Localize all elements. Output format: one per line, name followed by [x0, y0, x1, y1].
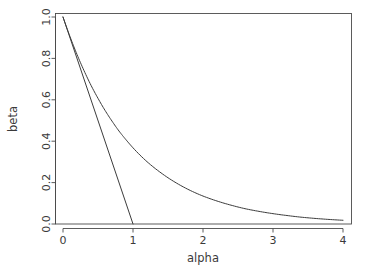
plot-panel-box	[56, 14, 352, 225]
y-axis	[52, 17, 56, 224]
y-tick-label-group: 0.00.20.40.60.81.0	[40, 8, 53, 233]
y-tick-label: 0.8	[40, 50, 53, 68]
x-tick-label-group: 01234	[60, 234, 347, 247]
x-axis	[63, 229, 343, 233]
y-tick-label: 0.2	[40, 174, 53, 192]
y-tick-label: 0.4	[40, 132, 53, 150]
x-axis-line	[63, 229, 343, 233]
x-axis-title: alpha	[187, 251, 219, 265]
exponential-decay-plot: 0.00.20.40.60.81.0 01234 alpha beta	[0, 0, 369, 273]
y-tick-label: 1.0	[40, 8, 53, 26]
series-exponential-decay	[63, 17, 343, 220]
x-tick-label: 2	[200, 234, 207, 247]
data-series-group	[63, 17, 343, 224]
y-axis-title: beta	[6, 106, 20, 132]
x-tick-label: 4	[340, 234, 347, 247]
y-axis-line	[52, 17, 56, 224]
y-tick-label: 0.6	[40, 91, 53, 109]
series-tangent-line	[63, 17, 133, 224]
x-tick-label: 0	[60, 234, 67, 247]
x-tick-label: 1	[130, 234, 137, 247]
x-tick-label: 3	[270, 234, 277, 247]
y-tick-label: 0.0	[40, 215, 53, 233]
chart-container: 0.00.20.40.60.81.0 01234 alpha beta	[0, 0, 369, 273]
